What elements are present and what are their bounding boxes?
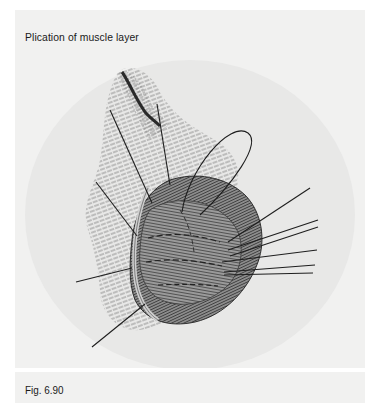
figure-panel: Plication of muscle layer [15,10,365,368]
caption-band: Fig. 6.90 [15,372,365,403]
figure-caption: Fig. 6.90 [25,384,64,396]
surgical-illustration [15,10,365,368]
